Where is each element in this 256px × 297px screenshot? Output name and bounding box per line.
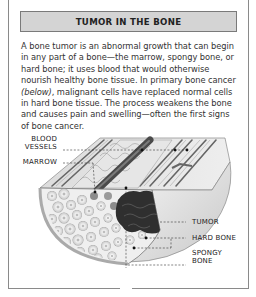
label-spongy-bone: SPONGY BONE xyxy=(192,249,222,265)
label-marrow: MARROW xyxy=(10,158,57,166)
label-tumor: TUMOR xyxy=(192,218,219,226)
label-blood-vessels: BLOOD VESSELS xyxy=(14,135,57,151)
label-hard-bone: HARD BONE xyxy=(192,234,236,242)
